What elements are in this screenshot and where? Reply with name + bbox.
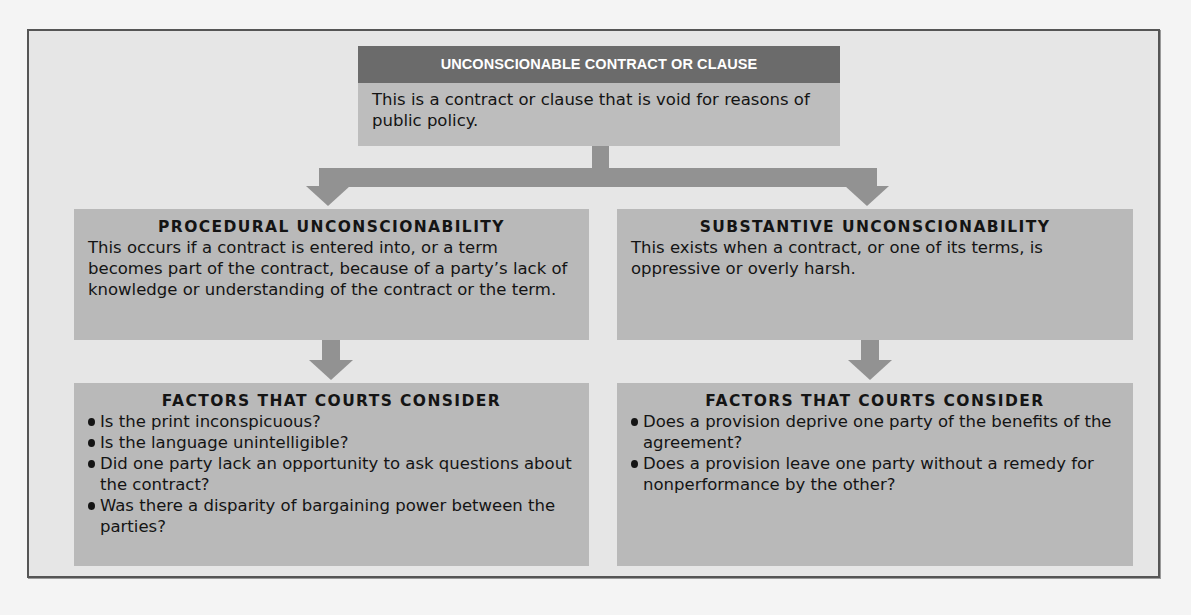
substantive-factors-box: FACTORS THAT COURTS CONSIDER Does a prov… [617, 383, 1133, 566]
horizontal-branch-connector [319, 168, 877, 187]
list-item: Is the language unintelligible? [88, 432, 579, 453]
procedural-factors-box: FACTORS THAT COURTS CONSIDER Is the prin… [74, 383, 589, 566]
substantive-factors-list: Does a provision deprive one party of th… [617, 411, 1133, 495]
bullet-icon [88, 418, 95, 426]
substantive-description: This exists when a contract, or one of i… [617, 237, 1133, 279]
procedural-factors-list: Is the print inconspicuous? Is the langu… [74, 411, 589, 537]
bullet-icon [88, 502, 95, 510]
procedural-factors-title: FACTORS THAT COURTS CONSIDER [74, 383, 589, 411]
left-branch-arrow-icon [306, 186, 350, 206]
substantive-box: SUBSTANTIVE UNCONSCIONABILITY This exist… [617, 209, 1133, 340]
diagram-frame: UNCONSCIONABLE CONTRACT OR CLAUSE This i… [27, 29, 1160, 578]
procedural-title: PROCEDURAL UNCONSCIONABILITY [74, 209, 589, 237]
root-description: This is a contract or clause that is voi… [358, 83, 840, 131]
substantive-factors-title: FACTORS THAT COURTS CONSIDER [617, 383, 1133, 411]
right-branch-arrow-icon [845, 186, 889, 206]
list-item: Is the print inconspicuous? [88, 411, 579, 432]
list-item: Does a provision leave one party without… [631, 453, 1123, 495]
list-item: Does a provision deprive one party of th… [631, 411, 1123, 453]
substantive-title: SUBSTANTIVE UNCONSCIONABILITY [617, 209, 1133, 237]
bullet-icon [631, 418, 638, 426]
root-box: UNCONSCIONABLE CONTRACT OR CLAUSE This i… [358, 46, 840, 146]
root-stem-connector [592, 146, 609, 169]
bullet-icon [88, 460, 95, 468]
list-item: Did one party lack an opportunity to ask… [88, 453, 579, 495]
list-item: Was there a disparity of bargaining powe… [88, 495, 579, 537]
procedural-box: PROCEDURAL UNCONSCIONABILITY This occurs… [74, 209, 589, 340]
substantive-down-arrow-icon [848, 360, 892, 380]
procedural-down-arrow-icon [309, 360, 353, 380]
root-title: UNCONSCIONABLE CONTRACT OR CLAUSE [358, 46, 840, 83]
procedural-description: This occurs if a contract is entered int… [74, 237, 589, 300]
bullet-icon [631, 460, 638, 468]
bullet-icon [88, 439, 95, 447]
